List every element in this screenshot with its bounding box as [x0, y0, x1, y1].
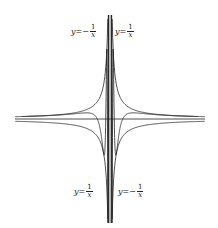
label-inv-x-top: y= 1x: [115, 24, 134, 39]
label-inv-x-bottom: y= 1x: [74, 184, 93, 199]
hyperbola-lower-left: [15, 121, 108, 219]
figure: y=− 1x y= 1x y= 1x y=− 1x: [0, 0, 218, 228]
hyperbola-lower-right: [112, 121, 205, 219]
label-neg-inv-x-top: y=− 1x: [71, 24, 96, 39]
label-neg-inv-x-bottom: y=− 1x: [118, 184, 143, 199]
graph-svg: [0, 0, 218, 228]
